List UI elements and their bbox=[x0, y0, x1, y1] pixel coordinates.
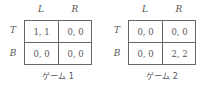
column-label-L: L bbox=[128, 4, 162, 14]
game-caption: ゲーム 2 bbox=[128, 70, 196, 81]
payoff-cell-B-L: 0, 0 bbox=[25, 43, 58, 65]
payoff-cell-T-R: 0, 0 bbox=[163, 21, 196, 43]
payoff-grid: 0, 0 0, 0 0, 0 2, 2 bbox=[128, 20, 196, 65]
game-caption: ゲーム 1 bbox=[24, 70, 92, 81]
row-label-T: T bbox=[6, 25, 20, 35]
payoff-cell-B-R: 0, 0 bbox=[59, 43, 92, 65]
game-1-matrix: L R T B 1, 1 0, 0 0, 0 0, 0 ゲーム 1 bbox=[0, 0, 102, 85]
payoff-cell-T-L: 1, 1 bbox=[25, 21, 58, 43]
payoff-grid: 1, 1 0, 0 0, 0 0, 0 bbox=[24, 20, 92, 65]
row-label-B: B bbox=[6, 48, 20, 58]
game-2-matrix: L R T B 0, 0 0, 0 0, 0 2, 2 ゲーム 2 bbox=[104, 0, 204, 85]
payoff-cell-B-L: 0, 0 bbox=[129, 43, 162, 65]
payoff-cell-T-R: 0, 0 bbox=[59, 21, 92, 43]
payoff-cell-T-L: 0, 0 bbox=[129, 21, 162, 43]
column-label-R: R bbox=[58, 4, 92, 14]
column-label-L: L bbox=[24, 4, 58, 14]
row-label-T: T bbox=[110, 25, 124, 35]
column-label-R: R bbox=[162, 4, 196, 14]
row-label-B: B bbox=[110, 48, 124, 58]
payoff-cell-B-R: 2, 2 bbox=[163, 43, 196, 65]
